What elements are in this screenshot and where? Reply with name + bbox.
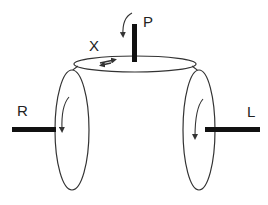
- axle-l: [205, 127, 260, 132]
- label-x: X: [89, 37, 99, 54]
- label-l: L: [247, 103, 255, 120]
- rotation-arrow-icon-top: [123, 13, 132, 35]
- axle-r: [12, 127, 56, 132]
- label-p: P: [143, 13, 153, 30]
- rotation-diagram: P X R L: [0, 0, 268, 205]
- left-disk: [55, 70, 89, 190]
- connector-curves: [62, 66, 208, 88]
- label-r: R: [17, 102, 28, 119]
- axle-p: [132, 24, 137, 62]
- double-arrow-icon: [100, 60, 114, 65]
